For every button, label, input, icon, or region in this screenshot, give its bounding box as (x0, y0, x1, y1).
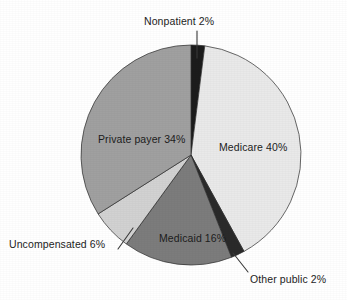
pie-label-nonpatient: Nonpatient 2% (144, 16, 214, 27)
pie-chart-canvas (0, 0, 347, 300)
pie-label-private-payer: Private payer 34% (98, 134, 186, 145)
pie-label-medicare: Medicare 40% (219, 142, 287, 153)
leader-line-other-public (233, 253, 248, 272)
pie-chart: Nonpatient 2% Medicare 40% Other public … (0, 0, 347, 300)
pie-label-other-public: Other public 2% (250, 274, 326, 285)
pie-label-medicaid: Medicaid 16% (159, 233, 226, 244)
pie-label-uncompensated: Uncompensated 6% (9, 239, 105, 250)
